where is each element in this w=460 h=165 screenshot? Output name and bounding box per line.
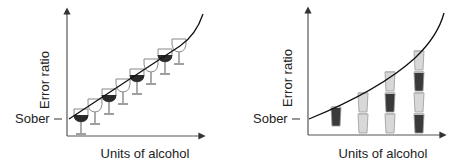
y-axis-label: Error ratio [280,49,295,107]
left-diagram: Sober Error ratio Units of alcohol [15,11,203,161]
beer-glass [414,113,424,133]
beer-glass [414,50,424,70]
beer-glass [358,113,368,133]
diagram-canvas: Sober Error ratio Units of alcohol Sober… [0,0,460,165]
beer-glass [414,71,424,91]
y-axis-label: Error ratio [37,51,52,109]
beer-glass [385,71,395,91]
sober-label: Sober [15,111,50,126]
beer-glass [414,92,424,112]
sober-label: Sober [253,111,288,126]
x-axis-label: Units of alcohol [339,146,428,161]
right-diagram: Sober Error ratio Units of alcohol [253,10,444,161]
wine-glass [130,69,145,94]
wine-glass [88,99,102,124]
beer-glass [385,92,395,112]
wine-glass [144,59,158,84]
x-axis-label: Units of alcohol [101,146,190,161]
wine-glass [74,109,89,134]
beer-glass [385,113,395,133]
